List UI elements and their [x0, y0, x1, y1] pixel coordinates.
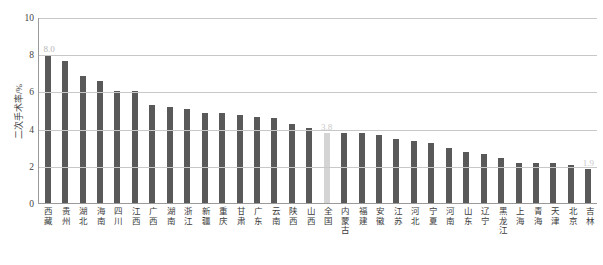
- x-axis-label: 吉林: [584, 207, 594, 236]
- bar-slot: [335, 18, 352, 204]
- bar-chart: 二次手术率/% 0246810 8.03.81.9 西藏贵州湖北海南四川江西广西…: [0, 0, 603, 265]
- bar-slot: [196, 18, 213, 204]
- x-label-slot: 广东: [248, 207, 265, 236]
- x-axis-label: 江西: [129, 207, 139, 236]
- gridline: [39, 55, 597, 56]
- bar-value-label: 8.0: [43, 44, 54, 54]
- bar: [219, 113, 225, 204]
- x-label-slot: 四川: [108, 207, 125, 236]
- gridline: [39, 92, 597, 93]
- gridline: [39, 167, 597, 168]
- bar-highlighted: [324, 133, 330, 204]
- x-label-slot: 陕西: [283, 207, 300, 236]
- bar: [167, 107, 173, 204]
- bar: [184, 109, 190, 204]
- bar: [446, 148, 452, 204]
- bar-slot: [370, 18, 387, 204]
- bar-slot: [91, 18, 108, 204]
- x-label-slot: 山西: [300, 207, 317, 236]
- bar: [463, 152, 469, 204]
- bar-value-label: 3.8: [321, 122, 332, 132]
- bar: [411, 141, 417, 204]
- bar-slot: [545, 18, 562, 204]
- bar-slot: [248, 18, 265, 204]
- x-label-slot: 全国: [318, 207, 335, 236]
- x-axis-label: 福建: [356, 207, 366, 236]
- bar-slot: 1.9: [580, 18, 597, 204]
- x-axis-label: 黑龙江: [496, 207, 506, 236]
- x-axis-label: 四川: [112, 207, 122, 236]
- x-axis-label: 山西: [304, 207, 314, 236]
- x-axis-label: 辽宁: [479, 207, 489, 236]
- x-axis-label: 海南: [94, 207, 104, 236]
- x-axis-label: 山东: [461, 207, 471, 236]
- x-axis-label: 云南: [269, 207, 279, 236]
- x-axis-label: 天津: [549, 207, 559, 236]
- bar-slot: [231, 18, 248, 204]
- x-axis-label: 贵州: [59, 207, 69, 236]
- y-axis-tick-labels: 0246810: [10, 0, 34, 205]
- bar-slot: [510, 18, 527, 204]
- bar-slot: [126, 18, 143, 204]
- x-axis-label: 陕西: [287, 207, 297, 236]
- x-label-slot: 福建: [352, 207, 369, 236]
- bar-slot: [475, 18, 492, 204]
- bar-slot: [74, 18, 91, 204]
- x-label-slot: 内蒙古: [335, 207, 352, 236]
- x-axis-label: 甘肃: [234, 207, 244, 236]
- x-axis-label: 西藏: [42, 207, 52, 236]
- bar-slot: [440, 18, 457, 204]
- x-label-slot: 河南: [440, 207, 457, 236]
- bar-slot: [144, 18, 161, 204]
- bar: [114, 91, 120, 204]
- bar-slot: [283, 18, 300, 204]
- bar-slot: [266, 18, 283, 204]
- x-axis-label: 上海: [514, 207, 524, 236]
- x-axis-label: 北京: [566, 207, 576, 236]
- y-tick-label: 4: [29, 125, 34, 135]
- bar: [585, 169, 591, 204]
- x-label-slot: 湖南: [160, 207, 177, 236]
- bar: [237, 115, 243, 204]
- x-axis-category-labels: 西藏贵州湖北海南四川江西广西湖南浙江新疆重庆甘肃广东云南陕西山西全国内蒙古福建安…: [38, 207, 597, 236]
- x-label-slot: 辽宁: [475, 207, 492, 236]
- y-tick-label: 2: [29, 162, 34, 172]
- bar: [97, 81, 103, 204]
- bar-slot: [388, 18, 405, 204]
- bar: [271, 118, 277, 204]
- x-axis-label: 广西: [147, 207, 157, 236]
- x-label-slot: 安徽: [370, 207, 387, 236]
- bar-slot: 8.0: [39, 18, 56, 204]
- x-axis-label: 宁夏: [426, 207, 436, 236]
- gridline: [39, 18, 597, 19]
- bar-slot: [161, 18, 178, 204]
- bar-series: 8.03.81.9: [39, 18, 597, 204]
- bar-slot: [405, 18, 422, 204]
- x-label-slot: 河北: [405, 207, 422, 236]
- x-label-slot: 浙江: [178, 207, 195, 236]
- bar: [568, 165, 574, 204]
- y-tick-label: 8: [29, 50, 34, 60]
- y-tick-label: 0: [29, 199, 34, 209]
- bar-slot: [423, 18, 440, 204]
- bar: [359, 133, 365, 204]
- y-tick-label: 6: [29, 87, 34, 97]
- x-label-slot: 上海: [510, 207, 527, 236]
- plot-area: 8.03.81.9: [38, 18, 597, 204]
- x-label-slot: 山东: [457, 207, 474, 236]
- bar: [149, 105, 155, 204]
- x-label-slot: 青海: [527, 207, 544, 236]
- bar-slot: 3.8: [318, 18, 335, 204]
- y-tick-label: 10: [25, 13, 35, 23]
- bar-slot: [213, 18, 230, 204]
- bar: [481, 154, 487, 204]
- x-label-slot: 云南: [265, 207, 282, 236]
- gridline: [39, 130, 597, 131]
- x-label-slot: 北京: [562, 207, 579, 236]
- bar: [202, 113, 208, 204]
- x-axis-line: [39, 203, 597, 204]
- bar: [132, 91, 138, 204]
- x-axis-label: 河南: [444, 207, 454, 236]
- x-label-slot: 广西: [143, 207, 160, 236]
- x-label-slot: 湖北: [73, 207, 90, 236]
